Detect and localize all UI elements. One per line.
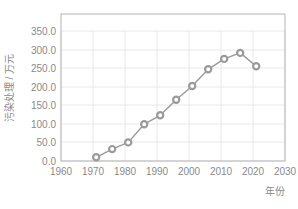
data-point[interactable] bbox=[253, 63, 259, 69]
data-point[interactable] bbox=[157, 112, 163, 118]
x-tick-label: 1990 bbox=[146, 166, 169, 177]
x-gridlines bbox=[61, 31, 285, 161]
x-tick-label: 2030 bbox=[274, 166, 297, 177]
data-point[interactable] bbox=[189, 83, 195, 89]
y-tick-label: 150.0 bbox=[31, 100, 56, 111]
line-chart: 0.0 50.0 100.0 150.0 200.0 250.0 300.0 3… bbox=[0, 0, 298, 209]
plot-frame bbox=[61, 14, 285, 161]
y-tick-labels: 0.0 50.0 100.0 150.0 200.0 250.0 300.0 3… bbox=[31, 26, 56, 167]
y-tick-label: 250.0 bbox=[31, 63, 56, 74]
x-axis-title: 年份 bbox=[265, 185, 285, 197]
data-point[interactable] bbox=[125, 139, 131, 145]
y-axis-title: 污染处理 / 万元 bbox=[3, 54, 15, 122]
data-point[interactable] bbox=[237, 50, 243, 56]
data-point[interactable] bbox=[109, 146, 115, 152]
data-point[interactable] bbox=[205, 66, 211, 72]
y-tick-label: 50.0 bbox=[37, 137, 57, 148]
y-tick-label: 200.0 bbox=[31, 82, 56, 93]
chart-container: 0.0 50.0 100.0 150.0 200.0 250.0 300.0 3… bbox=[0, 0, 298, 209]
y-tick-label: 300.0 bbox=[31, 45, 56, 56]
y-tick-label: 100.0 bbox=[31, 119, 56, 130]
data-point[interactable] bbox=[173, 97, 179, 103]
x-tick-label: 2020 bbox=[242, 166, 265, 177]
x-tick-label: 1970 bbox=[82, 166, 105, 177]
y-tick-label: 0.0 bbox=[42, 156, 56, 167]
x-tick-label: 2010 bbox=[210, 166, 233, 177]
data-point[interactable] bbox=[93, 154, 99, 160]
x-tick-labels: 1960 1970 1980 1990 2000 2010 2020 2030 bbox=[50, 166, 297, 177]
data-point[interactable] bbox=[141, 121, 147, 127]
y-gridlines bbox=[61, 31, 285, 161]
x-tick-label: 1960 bbox=[50, 166, 73, 177]
data-point[interactable] bbox=[221, 56, 227, 62]
x-tick-label: 2000 bbox=[178, 166, 201, 177]
x-tick-label: 1980 bbox=[114, 166, 137, 177]
y-tick-label: 350.0 bbox=[31, 26, 56, 37]
